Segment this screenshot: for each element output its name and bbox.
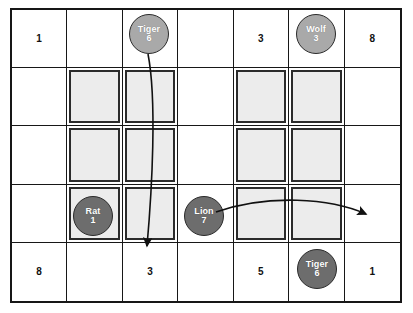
game-piece-rank: 3 [313,34,318,43]
board-cell-r5c1[interactable]: 8 [12,243,67,301]
board-cell-r1c2[interactable] [67,10,122,68]
board-cell-shaded-r2c5[interactable] [234,68,289,126]
cell-number: 8 [369,33,375,44]
board-cell-r2c1[interactable] [12,68,67,126]
board-cell-r1c4[interactable] [178,10,233,68]
board-cell-shaded-r3c3[interactable] [123,126,178,184]
cell-number: 1 [369,266,375,277]
board-cell-r2c4[interactable] [178,68,233,126]
game-board: 1388351 Tiger6Wolf3Rat1Lion7Tiger6 [0,0,413,313]
game-piece-rank: 6 [146,34,151,43]
board-cell-r5c2[interactable] [67,243,122,301]
board-cell-r3c7[interactable] [345,126,400,184]
board-cell-r3c1[interactable] [12,126,67,184]
board-cell-r1c5[interactable]: 3 [234,10,289,68]
cell-number: 8 [36,266,42,277]
board-cell-r4c7[interactable] [345,185,400,243]
cell-number: 3 [147,266,153,277]
board-cell-shaded-r4c5[interactable] [234,185,289,243]
board-cell-shaded-r4c6[interactable] [289,185,344,243]
game-piece-tiger-top[interactable]: Tiger6 [129,14,169,54]
board-cell-r4c1[interactable] [12,185,67,243]
board-cell-r5c7[interactable]: 1 [345,243,400,301]
board-cell-shaded-r3c6[interactable] [289,126,344,184]
board-cell-shaded-r3c2[interactable] [67,126,122,184]
board-cell-r5c3[interactable]: 3 [123,243,178,301]
board-cell-shaded-r2c2[interactable] [67,68,122,126]
board-cell-r5c5[interactable]: 5 [234,243,289,301]
board-cell-shaded-r2c3[interactable] [123,68,178,126]
game-piece-lion[interactable]: Lion7 [184,196,224,236]
board-cell-r5c4[interactable] [178,243,233,301]
game-piece-rank: 7 [201,216,206,225]
board-cell-r3c4[interactable] [178,126,233,184]
game-piece-rank: 1 [90,216,95,225]
board-cell-shaded-r3c5[interactable] [234,126,289,184]
board-cell-shaded-r2c6[interactable] [289,68,344,126]
board-grid: 1388351 [10,8,402,303]
board-cell-r1c1[interactable]: 1 [12,10,67,68]
board-cell-r2c7[interactable] [345,68,400,126]
game-piece-tiger-bottom[interactable]: Tiger6 [297,249,337,289]
game-piece-rank: 6 [314,269,319,278]
board-cell-shaded-r4c3[interactable] [123,185,178,243]
cell-number: 3 [258,33,264,44]
cell-number: 5 [258,266,264,277]
game-piece-wolf-top[interactable]: Wolf3 [296,14,336,54]
game-piece-rat[interactable]: Rat1 [73,196,113,236]
cell-number: 1 [36,33,42,44]
board-cell-r1c7[interactable]: 8 [345,10,400,68]
